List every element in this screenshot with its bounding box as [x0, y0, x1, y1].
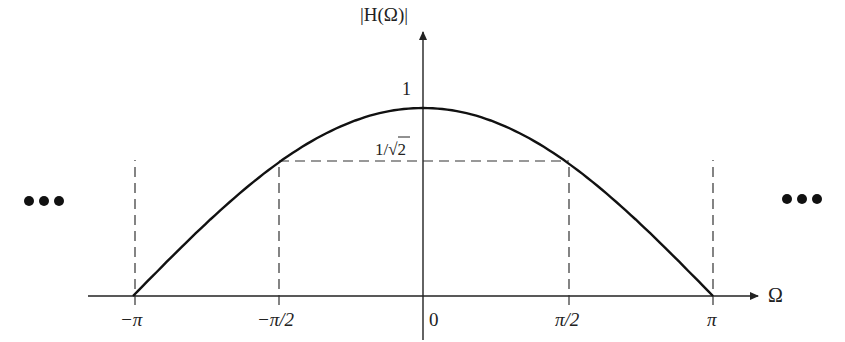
x-tick-pi: π	[707, 309, 717, 330]
x-axis-label: Ω	[768, 284, 783, 306]
y-tick-inv-sqrt2: 1/√2	[375, 140, 406, 159]
dashed-guides	[135, 160, 713, 305]
ellipsis-right-icon	[782, 194, 822, 204]
y-tick-one: 1	[402, 79, 411, 99]
x-tick-zero: 0	[429, 309, 439, 330]
frequency-response-diagram: |H(Ω)| Ω 1 1/√2 −π −π/2 0 π/2 π	[0, 0, 845, 342]
x-tick-neg-pi: −π	[120, 309, 143, 330]
y-axis-label: |H(Ω)|	[360, 4, 408, 26]
x-tick-pi-half: π/2	[555, 309, 580, 330]
x-tick-neg-pi-half: −π/2	[257, 309, 295, 330]
ellipsis-left-icon	[24, 196, 64, 206]
